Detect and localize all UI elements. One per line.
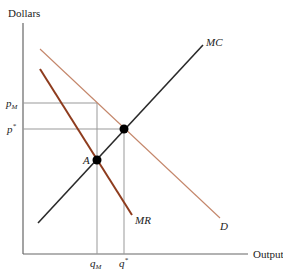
point-equilibrium: [120, 125, 129, 134]
marginal-revenue-curve: [40, 69, 132, 215]
qstar-label: q*: [119, 256, 129, 269]
d-label: D: [219, 220, 228, 232]
y-axis-label: Dollars: [8, 7, 40, 19]
x-axis-label: Output: [253, 248, 283, 260]
mr-label: MR: [134, 214, 151, 226]
pstar-label: p*: [6, 122, 17, 135]
point-a-label: A: [82, 154, 90, 166]
point-a: [93, 156, 102, 165]
monopoly-diagram: Dollars Output MC D MR A pM p* qM q*: [0, 0, 283, 270]
mc-label: MC: [205, 36, 223, 48]
pm-label: pM: [5, 97, 19, 111]
qm-label: qM: [90, 257, 103, 270]
